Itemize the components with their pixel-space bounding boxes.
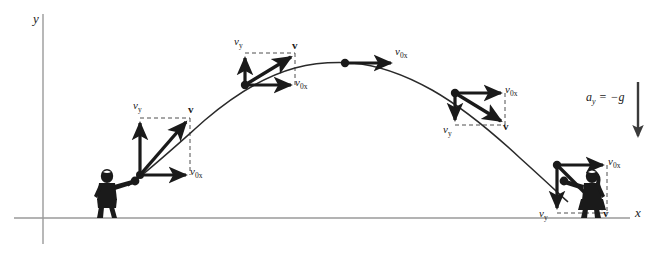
label-vy-rising: vy [234,36,243,47]
ball-rising [241,81,249,89]
label-vy-launch: vy [133,100,142,111]
label-v-launch: v [188,104,194,115]
vector-set-launch [136,118,190,179]
label-v-rising: v [292,40,298,51]
vy-falling-subscript: y [448,129,452,138]
label-v-falling: v [503,121,509,132]
label-v0x-launch: v0x [190,166,202,177]
vector-v-falling [455,93,501,121]
catcher-leg-back [581,209,588,218]
trajectory-parabola [128,63,568,202]
label-v0x-landing: v0x [608,156,620,167]
acceleration-label: ay=−g [586,91,624,103]
thrower-leg-back [97,207,104,218]
acceleration-value: −g [610,90,624,104]
ball-falling [451,89,459,97]
thrower-figure [94,169,142,218]
vector-v-launch [140,122,186,175]
figure-canvas [0,0,663,259]
y-axis-label: y [33,12,39,25]
v0x-falling-subscript: 0x [510,89,518,98]
v0x-landing-subscript: 0x [613,161,621,170]
v0x-launch-subscript: 0x [195,171,203,180]
catcher-leg-front [594,209,601,218]
v0x-apex-subscript: 0x [400,51,408,60]
v0x-rising-subscript: 0x [300,82,308,91]
catcher-ball-in-hand [560,177,569,186]
label-vy-landing: vy [539,208,548,219]
axes-group [14,14,630,244]
vy-landing-subscript: y [544,213,548,222]
label-v0x-apex: v0x [395,46,407,57]
ball-landing [553,161,561,169]
projectile-motion-figure: y x ay=−g vy v0x v vy v0x v v0x vy v0x v… [0,0,663,259]
thrower-leg-front [109,207,117,218]
trajectory-path-group [128,63,568,202]
x-axis-label: x [635,206,641,219]
vector-set-apex [341,59,391,67]
acceleration-equals: = [596,90,611,104]
label-v-landing: v [603,208,609,219]
thrower-shorts [97,199,117,208]
label-v0x-rising: v0x [295,77,307,88]
ball-apex [341,59,349,67]
label-vy-falling: vy [443,124,452,135]
acceleration-subscript: y [592,97,596,106]
vy-rising-subscript: y [239,41,243,50]
catcher-skirt [578,199,606,210]
label-v0x-falling: v0x [505,84,517,95]
vy-launch-subscript: y [138,105,142,114]
